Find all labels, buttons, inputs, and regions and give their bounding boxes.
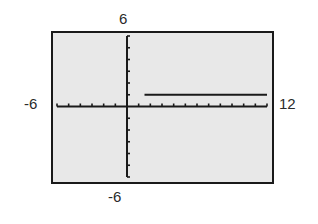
calculator-graph-screen bbox=[0, 0, 318, 224]
